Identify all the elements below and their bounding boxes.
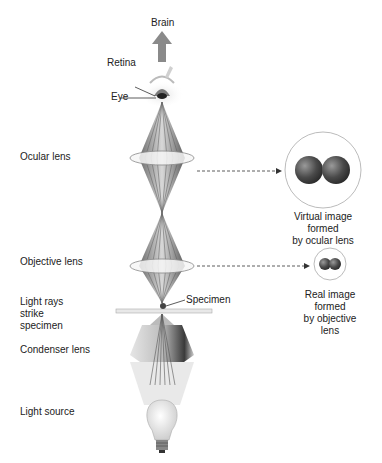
label-objective-lens: Objective lens [20, 256, 83, 268]
caption-virtual-image: Virtual image formed by ocular lens [278, 211, 368, 247]
label-brain: Brain [151, 17, 174, 29]
label-eye: Eye [111, 91, 128, 103]
virtual-image [285, 132, 361, 208]
label-light-rays-3: specimen [20, 320, 63, 332]
caption-real-image: Real image formed by objective lens [290, 289, 370, 337]
eye-icon [140, 66, 184, 106]
objective-light-cone [139, 213, 185, 303]
caption-line: Real image [290, 289, 370, 301]
condenser-lens [130, 314, 194, 405]
arrow-to-real-image [197, 263, 310, 269]
label-retina: Retina [107, 57, 136, 69]
label-condenser-lens: Condenser lens [20, 344, 90, 356]
caption-line: lens [290, 325, 370, 337]
caption-line: formed [290, 301, 370, 313]
label-light-rays-1: Light rays [20, 296, 63, 308]
caption-line: formed [278, 223, 368, 235]
caption-line: by objective [290, 313, 370, 325]
label-light-source: Light source [20, 406, 74, 418]
real-image [314, 248, 346, 280]
label-specimen: Specimen [186, 294, 230, 306]
specimen-dot [160, 303, 166, 309]
light-bulb-icon [147, 400, 177, 453]
label-light-rays-2: strike [20, 308, 44, 320]
slide [116, 309, 212, 313]
caption-line: Virtual image [278, 211, 368, 223]
brain-arrow-icon [152, 31, 172, 62]
caption-line: by ocular lens [278, 235, 368, 247]
objective-lens [130, 259, 194, 273]
arrow-to-virtual-image [197, 168, 282, 174]
ocular-lens [130, 151, 194, 165]
label-ocular-lens: Ocular lens [20, 151, 71, 163]
